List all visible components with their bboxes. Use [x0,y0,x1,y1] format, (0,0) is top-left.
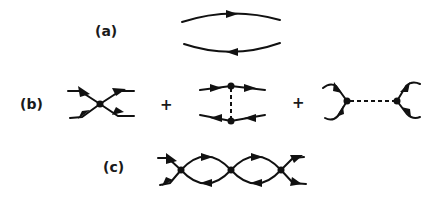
arrow-in-icon [401,107,411,117]
arrow-right-icon [251,153,263,161]
arrow-in-icon [333,82,342,93]
arrow-right-icon [201,153,213,161]
panel-a: (a) [95,10,280,56]
direct-diagram [323,82,420,120]
panel-b-label: (b) [20,96,43,112]
vertex-dot [278,167,285,174]
arrow-left-icon [250,179,262,187]
vertex-dot [97,101,104,108]
bubble-chain [158,153,306,187]
feynman-diagram-figure: (a) (b) + [0,0,437,204]
panel-c-label: (c) [103,159,124,175]
vertex-dot [228,83,235,90]
vertex-dot [344,98,351,105]
four-point-vertex [68,86,134,119]
arrow-right-icon [210,84,222,92]
vertex-dot [228,118,235,125]
vertex-dot [228,167,235,174]
plus-operator-1: + [160,96,173,114]
vertex-dot [178,167,185,174]
arrow-in-icon [112,107,124,115]
arrow-left-icon [226,48,238,56]
panel-c: (c) [103,153,306,187]
arrow-left-icon [210,114,222,122]
arrow-left-icon [200,179,212,187]
vertex-dot [394,98,401,105]
arrow-right-icon [226,10,238,18]
arrow-left-icon [244,114,256,122]
arrow-out-icon [336,106,344,117]
panel-b: (b) + + [20,82,420,125]
arrow-right-icon [244,84,256,92]
plus-operator-2: + [292,94,305,112]
arrow-out-icon [400,82,410,92]
exchange-diagram [200,83,265,125]
panel-a-label: (a) [95,23,117,39]
arrow-in-icon [290,177,302,186]
arrow-in-icon [166,153,177,164]
